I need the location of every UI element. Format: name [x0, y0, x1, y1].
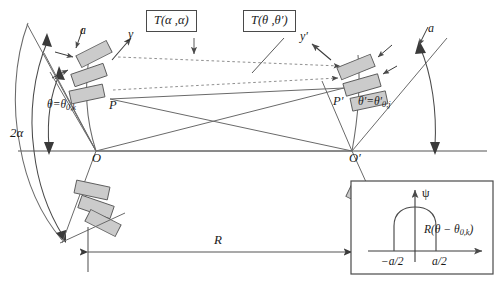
point-label-P-prime: P′: [333, 95, 343, 108]
aperture-label-right: a: [428, 22, 434, 34]
angle-theta-prime-arc: [415, 40, 440, 155]
axis-y-left: [112, 38, 131, 60]
angle-label-theta-right-sub: 0,j: [382, 100, 391, 109]
axis-label-y-prime-right: y′: [300, 30, 308, 42]
inset-x-axis-label: R(θ − θ0,k): [424, 224, 473, 237]
diagram-vector-layer: [0, 0, 503, 292]
dimension-label-R: R: [214, 233, 222, 246]
inset-y-axis-label: ψ: [422, 187, 430, 199]
callout-box-t-alpha: T(α ,α): [146, 10, 197, 32]
cross-transmission-rays: [96, 88, 352, 151]
callout-leaders: [194, 38, 284, 73]
figure-canvas: T(α ,α) T(θ ,θ′) a a y y′ P P′ O O′ θ=θ0…: [0, 0, 503, 292]
angle-label-theta-left: θ=θ0,k: [47, 99, 76, 112]
angle-label-theta-right-main: θ′=θ′: [358, 95, 382, 107]
left-element-group-lower: [74, 180, 121, 236]
angle-label-theta-left-sub: 0,k: [66, 103, 76, 112]
callout-box-t-theta: T(θ ,θ′): [243, 10, 296, 32]
angle-label-2alpha: 2α: [10, 126, 23, 139]
inset-x-axis-label-tail: ): [470, 223, 474, 235]
dashed-reference-rays: [113, 57, 340, 90]
inset-x-axis-label-main: R(θ − θ: [424, 223, 460, 235]
axis-y-prime-right: [312, 44, 331, 60]
origin-label-O-prime: O′: [349, 152, 361, 165]
origin-label-O: O: [92, 152, 101, 165]
left-element-group-upper: [69, 40, 112, 103]
angle-label-theta-right: θ′=θ′0,j: [358, 96, 391, 109]
inset-tick-label-right: a/2: [432, 256, 447, 268]
aperture-a-left-leaders: [52, 28, 83, 78]
angle-2alpha-arrowheads: [42, 33, 66, 243]
inset-x-axis-label-sub: 0,k: [460, 228, 470, 237]
axis-label-y-left: y: [128, 28, 133, 40]
aperture-label-left: a: [80, 24, 86, 36]
point-label-P: P: [109, 99, 117, 112]
inset-tick-label-left: −a/2: [381, 256, 403, 268]
angle-label-theta-left-main: θ=θ: [47, 98, 66, 110]
